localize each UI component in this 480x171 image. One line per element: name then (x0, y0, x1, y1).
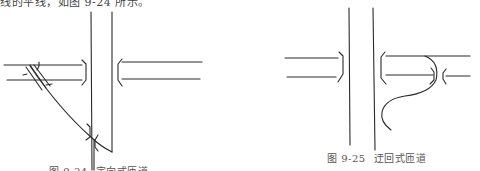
figure-directional-ramp (4, 12, 202, 170)
figures-canvas (0, 0, 480, 171)
ramp-overpass-bracket-left (23, 74, 27, 75)
main-road-left-edge (349, 8, 350, 145)
caption-title: 迂回式匝道 (374, 153, 427, 164)
right-arm-bracket (381, 52, 386, 84)
figure-loop-ramp (285, 8, 470, 150)
ramp-merge-bracket-upper (86, 124, 90, 140)
left-arm-bracket (338, 52, 343, 82)
loop-ramp-bracket-right (443, 69, 446, 84)
main-road-right-edge (373, 8, 375, 150)
ramp-overpass-bracket-top (37, 62, 39, 70)
ramp-curve (30, 66, 112, 152)
main-road-left-edge (91, 12, 92, 170)
caption-number: 图 9-24 (49, 166, 88, 171)
loop-ramp-curve (382, 56, 437, 130)
figure-caption-9-25: 图 9-25迂回式匝道 (327, 150, 426, 165)
figure-caption-9-24: 图 9-24定向式匝道 (49, 163, 148, 171)
ramp-overpass-bracket-right (46, 84, 52, 85)
left-arm-bracket (82, 60, 86, 85)
caption-number: 图 9-25 (327, 153, 366, 164)
caption-title: 定向式匝道 (96, 166, 149, 171)
right-arm-bracket (118, 59, 122, 86)
loop-ramp-bracket-left (430, 68, 434, 84)
